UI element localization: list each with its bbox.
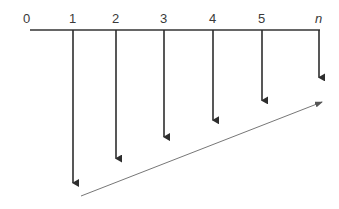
- label-n: n: [315, 11, 322, 26]
- label-3: 3: [160, 11, 167, 26]
- cash-flow-diagram: 0 12345n: [0, 0, 339, 209]
- trend-arrow: [81, 102, 322, 196]
- label-2: 2: [112, 11, 119, 26]
- label-4: 4: [209, 11, 216, 26]
- label-1: 1: [69, 11, 76, 26]
- label-0: 0: [23, 11, 30, 26]
- label-5: 5: [258, 11, 265, 26]
